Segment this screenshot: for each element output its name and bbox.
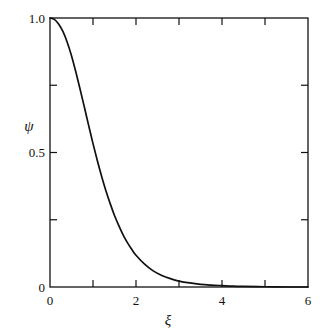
x-tick-label-4: 4 bbox=[219, 293, 226, 308]
x-tick-label-2: 2 bbox=[133, 293, 140, 308]
y-axis-title: ψ bbox=[24, 118, 34, 134]
y-tick-label-0: 0 bbox=[39, 280, 46, 295]
x-axis-title: ξ bbox=[165, 312, 172, 328]
chart-canvas: 1.0 0.5 0 0 2 4 6 ψ ξ bbox=[0, 0, 329, 334]
x-tick-label-0: 0 bbox=[47, 293, 54, 308]
y-tick-label-1: 1.0 bbox=[29, 11, 45, 26]
y-tick-label-0-5: 0.5 bbox=[29, 145, 45, 160]
chart-figure: 1.0 0.5 0 0 2 4 6 ψ ξ bbox=[0, 0, 329, 334]
x-tick-label-6: 6 bbox=[305, 293, 312, 308]
